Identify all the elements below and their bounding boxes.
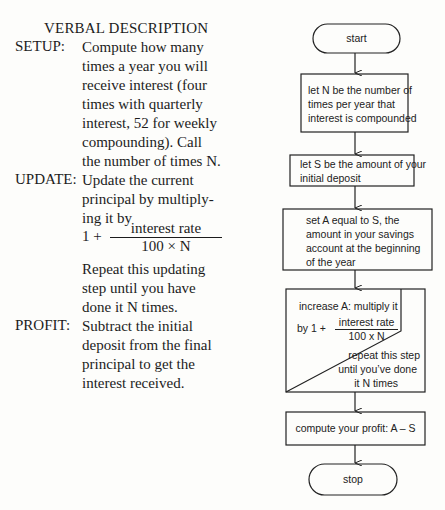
step1-line: interest is compounded <box>308 111 417 125</box>
step1-line: let N be the number of <box>308 83 417 97</box>
loop-repeat-line: repeat this step <box>338 348 420 362</box>
step3-line: amount in your savings <box>306 227 420 241</box>
step2-line: let S be the amount of your <box>300 157 426 171</box>
step3-line: set A equal to S, the <box>306 213 420 227</box>
loop-formula: by 1 + interest rate 100 x N <box>297 316 398 343</box>
profit-text: compute your profit: A – S <box>286 421 425 435</box>
step2-line: initial deposit <box>300 171 426 185</box>
start-label: start <box>313 31 400 45</box>
loop-line1: increase A: multiply it <box>299 299 398 313</box>
loop-fraction: interest rate 100 x N <box>335 316 398 343</box>
step1-line: times per year that <box>308 97 417 111</box>
flowchart: start let N be the number of times per y… <box>0 0 445 510</box>
loop-repeat-line: until you’ve done <box>338 362 417 376</box>
loop-repeat-line: it N times <box>338 376 398 390</box>
step3-line: of the year <box>306 255 420 269</box>
step1-text: let N be the number of times per year th… <box>308 83 417 125</box>
loop-by-prefix: by 1 + <box>297 322 326 334</box>
step3-text: set A equal to S, the amount in your sav… <box>306 213 420 269</box>
step3-line: account at the beginning <box>306 241 420 255</box>
loop-numerator: interest rate <box>335 316 398 330</box>
loop-repeat-text: repeat this step until you’ve done it N … <box>338 348 420 390</box>
step2-text: let S be the amount of your initial depo… <box>300 157 426 185</box>
loop-denominator: 100 x N <box>335 330 398 343</box>
stop-label: stop <box>309 472 397 486</box>
